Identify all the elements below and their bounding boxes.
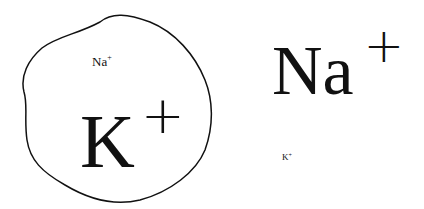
ion-symbol: K <box>80 99 135 183</box>
ion-symbol: Na <box>92 54 107 69</box>
ion-charge: + <box>289 152 292 158</box>
inside-sodium-label: Na+ <box>92 55 112 68</box>
outside-potassium-label: K+ <box>282 153 292 162</box>
ion-charge: + <box>364 17 404 73</box>
ion-symbol: Na <box>272 32 354 109</box>
ion-charge: + <box>141 85 185 145</box>
inside-potassium-label: K+ <box>80 103 184 179</box>
ion-symbol: K <box>282 152 289 162</box>
outside-sodium-label: Na+ <box>272 36 404 106</box>
ion-charge: + <box>107 53 112 62</box>
